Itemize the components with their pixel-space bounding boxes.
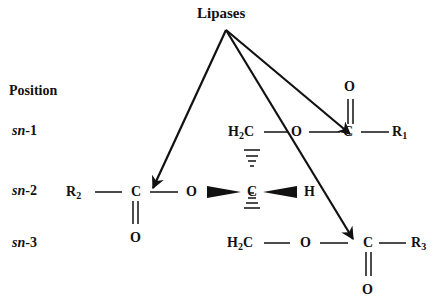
sn1-r-group: R1 [392,125,407,139]
wedge-bond-o [207,186,241,198]
sn1-ch2: H2C [228,125,254,139]
sn3-r-group: R3 [411,236,426,250]
sn2-hydrogen: H [304,185,315,199]
sn3-carbonyl-carbon: C [363,236,373,250]
arrow-to-sn1 [226,30,350,134]
sn1-carbonyl-oxygen: O [344,80,355,94]
sn2-carbonyl-oxygen: O [130,231,141,245]
sn3-carbonyl-oxygen: O [362,283,373,297]
sn2-ester-oxygen: O [186,185,197,199]
lipases-label: Lipases [197,6,245,21]
wedge-bond-h [263,186,297,198]
position-sn1: sn-1 [12,124,37,138]
sn2-central-carbon: C [247,185,257,199]
sn1-ester-oxygen: O [291,125,302,139]
sn3-ch2: H2C [227,236,253,250]
sn2-r-group: R2 [66,185,81,199]
triacylglycerol-lipase-diagram: Lipases Position sn-1 sn-2 sn-3 H2C O C … [0,0,444,306]
position-sn2: sn-2 [12,184,37,198]
position-header: Position [9,84,57,98]
sn2-carbonyl-carbon: C [131,185,141,199]
sn3-ester-oxygen: O [300,236,311,250]
diagram-lines [0,0,444,306]
sn1-carbonyl-carbon: C [343,125,353,139]
position-sn3: sn-3 [12,236,37,250]
arrow-to-sn2 [153,30,226,188]
